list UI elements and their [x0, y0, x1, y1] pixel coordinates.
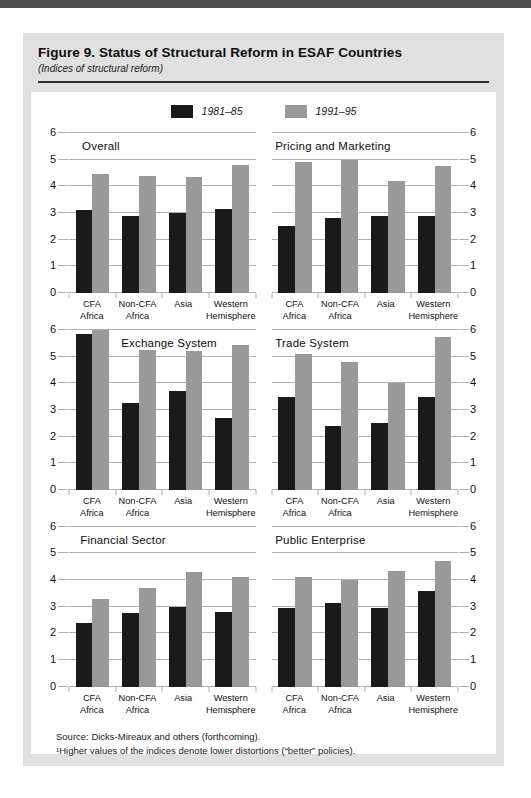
ytick-label-2: 2: [470, 234, 482, 245]
x-axis-labels: CFA AfricaNon-CFA AfricaAsiaWestern Hemi…: [272, 496, 459, 520]
xtick-0: [271, 687, 272, 692]
category-label-cfa-africa: CFA Africa: [69, 496, 115, 520]
ytick-label-5: 5: [470, 548, 482, 559]
bar-1991-95-asia: [388, 571, 405, 687]
ytick-label-4: 4: [470, 377, 482, 388]
bar-1981-85-non-cfa-africa: [325, 603, 342, 687]
bar-1991-95-non-cfa-africa: [341, 160, 358, 293]
gridline-6: [272, 329, 459, 330]
x-axis-labels: CFA AfricaNon-CFA AfricaAsiaWestern Hemi…: [69, 496, 256, 520]
ytick-1: [459, 265, 469, 266]
legend-swatch-1991-95: [285, 105, 307, 118]
ytick-label-4: 4: [44, 180, 56, 191]
bar-1991-95-cfa-africa: [92, 599, 109, 687]
category-label-cfa-africa: CFA Africa: [272, 496, 318, 520]
xtick-1: [318, 293, 319, 298]
category-label-cfa-africa: CFA Africa: [272, 693, 318, 717]
gridline-5: [69, 159, 256, 160]
category-label-non-cfa-africa: Non-CFA Africa: [317, 496, 363, 520]
xtick-0: [69, 490, 70, 495]
xtick-0: [271, 293, 272, 298]
ytick-4: [459, 185, 469, 186]
bar-1991-95-non-cfa-africa: [139, 350, 156, 490]
figure-subtitle: (Indices of structural reform): [38, 63, 489, 74]
ytick-label-4: 4: [470, 574, 482, 585]
category-label-cfa-africa: CFA Africa: [69, 693, 115, 717]
chart-exchange-system: 0123456Exchange SystemCFA AfricaNon-CFA …: [44, 330, 256, 520]
xtick-3: [208, 687, 209, 692]
xtick-2: [162, 293, 163, 298]
legend-item-1991-95: 1991–95: [285, 105, 357, 118]
category-label-western-hemisphere: Western Hemisphere: [206, 496, 256, 520]
ytick-label-4: 4: [44, 574, 56, 585]
xtick-4: [458, 490, 459, 495]
category-label-cfa-africa: CFA Africa: [69, 299, 115, 323]
xtick-3: [208, 293, 209, 298]
category-label-asia: Asia: [363, 693, 409, 717]
ytick-5: [58, 552, 68, 553]
bar-1991-95-non-cfa-africa: [341, 362, 358, 490]
bar-1991-95-western-hemisphere: [435, 561, 452, 686]
bar-1991-95-asia: [388, 383, 405, 490]
ytick-label-4: 4: [44, 377, 56, 388]
ytick-label-1: 1: [44, 457, 56, 468]
category-label-western-hemisphere: Western Hemisphere: [408, 299, 458, 323]
xtick-3: [411, 293, 412, 298]
page: Figure 9. Status of Structural Reform in…: [0, 0, 531, 798]
gridline-6: [69, 526, 256, 527]
ytick-2: [58, 632, 68, 633]
ytick-4: [58, 382, 68, 383]
xtick-1: [318, 687, 319, 692]
bar-1991-95-cfa-africa: [92, 330, 109, 490]
xtick-2: [364, 293, 365, 298]
bar-1981-85-non-cfa-africa: [325, 218, 342, 293]
bar-1981-85-cfa-africa: [76, 210, 93, 293]
bar-1991-95-western-hemisphere: [435, 337, 452, 490]
ytick-3: [58, 212, 68, 213]
bar-1981-85-non-cfa-africa: [325, 426, 342, 490]
chart-box: 1981–85 1991–95 0123456OverallCFA Africa…: [31, 92, 496, 754]
ytick-0: [459, 292, 469, 293]
plot-area-financial-sector: 0123456Financial Sector: [69, 527, 256, 687]
figure-title: Figure 9. Status of Structural Reform in…: [38, 45, 489, 60]
category-label-non-cfa-africa: Non-CFA Africa: [115, 299, 161, 323]
ytick-label-2: 2: [44, 234, 56, 245]
ytick-3: [58, 606, 68, 607]
ytick-label-3: 3: [44, 601, 56, 612]
ytick-label-5: 5: [44, 351, 56, 362]
ytick-label-6: 6: [44, 521, 56, 532]
category-label-non-cfa-africa: Non-CFA Africa: [115, 496, 161, 520]
ytick-label-6: 6: [470, 324, 482, 335]
ytick-label-5: 5: [470, 154, 482, 165]
bar-1981-85-western-hemisphere: [215, 209, 232, 293]
ytick-label-0: 0: [470, 484, 482, 495]
notes: Source: Dicks-Mireaux and others (forthc…: [44, 730, 483, 759]
bar-1991-95-western-hemisphere: [232, 345, 249, 490]
bar-1991-95-asia: [186, 177, 203, 293]
chart-title-trade-system: Trade System: [275, 337, 349, 349]
ytick-0: [58, 489, 68, 490]
ytick-label-0: 0: [44, 484, 56, 495]
ytick-label-5: 5: [470, 351, 482, 362]
bar-1991-95-western-hemisphere: [435, 166, 452, 293]
category-label-asia: Asia: [160, 693, 206, 717]
ytick-4: [58, 185, 68, 186]
ytick-6: [58, 526, 68, 527]
gridline-6: [272, 132, 459, 133]
ytick-0: [58, 686, 68, 687]
gridline-4: [69, 579, 256, 580]
ytick-5: [459, 552, 469, 553]
category-label-cfa-africa: CFA Africa: [272, 299, 318, 323]
ytick-label-1: 1: [44, 260, 56, 271]
ytick-5: [459, 356, 469, 357]
bar-1981-85-western-hemisphere: [418, 216, 435, 293]
figure-header: Figure 9. Status of Structural Reform in…: [31, 45, 496, 74]
bar-1991-95-non-cfa-africa: [139, 176, 156, 293]
ytick-label-5: 5: [44, 154, 56, 165]
ytick-4: [459, 382, 469, 383]
bar-1981-85-asia: [371, 216, 388, 293]
header-rule: [38, 81, 489, 83]
x-axis-labels: CFA AfricaNon-CFA AfricaAsiaWestern Hemi…: [272, 299, 459, 323]
ytick-3: [459, 409, 469, 410]
bar-1981-85-western-hemisphere: [215, 418, 232, 490]
